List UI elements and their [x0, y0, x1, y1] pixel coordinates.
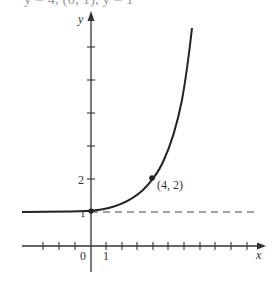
point-label: (4, 2): [157, 178, 183, 192]
x-tick-label-1: 1: [103, 249, 109, 263]
graph-figure: y x 0 1 1 2 (4, 2): [0, 0, 272, 281]
y-tick-label-1: 1: [80, 207, 86, 219]
point-4-2: [149, 175, 155, 181]
x-axis-label: x: [255, 248, 262, 262]
y-intercept-point: [88, 208, 93, 213]
y-axis-arrow-icon: [88, 11, 95, 21]
origin-label: 0: [80, 249, 86, 263]
y-axis-label: y: [77, 12, 84, 26]
y-tick-label-2: 2: [78, 173, 84, 187]
